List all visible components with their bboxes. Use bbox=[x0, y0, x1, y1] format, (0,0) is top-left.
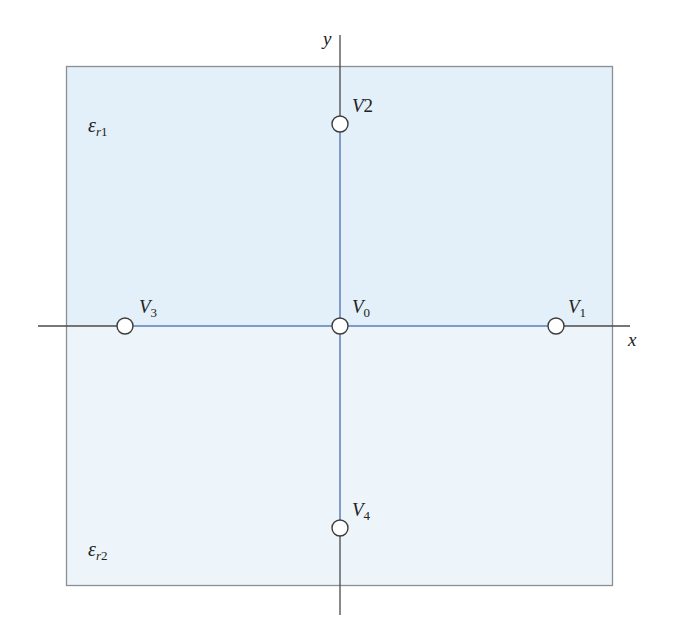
node-circle-icon bbox=[117, 318, 133, 334]
dielectric-interface-diagram: xy εr1εr2 V0V1V2V3V4 bbox=[0, 0, 676, 636]
node-circle-icon bbox=[332, 116, 348, 132]
node-circle-icon bbox=[332, 520, 348, 536]
node-label: V2 bbox=[352, 95, 373, 116]
upper-dielectric-region bbox=[66, 66, 612, 326]
node-circle-icon bbox=[548, 318, 564, 334]
x-axis-label: x bbox=[627, 329, 637, 350]
lower-dielectric-region bbox=[66, 326, 612, 585]
node-circle-icon bbox=[332, 318, 348, 334]
y-axis-label: y bbox=[321, 28, 332, 49]
